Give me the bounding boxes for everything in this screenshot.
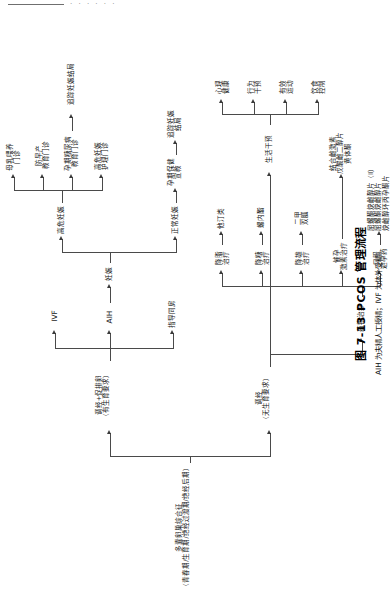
fanout-spine-pregnancy <box>62 252 176 253</box>
edge-education-outcome <box>176 143 177 155</box>
node-no-fertility-branch: 调经 （无生育要求） <box>256 369 271 427</box>
arrow-spironolactone <box>259 231 263 235</box>
node-oc-drugs: 屈螺酮炔雌醇片（Ⅱ） 屈螺酮炔雌醇片 炔雌醇环丙孕酮片 <box>368 139 390 231</box>
node-guided-intercourse: 指导同房 <box>169 297 176 331</box>
edge-highrisk-fanout <box>62 191 63 203</box>
node-effective-exercise: 有效 运动 <box>280 74 295 100</box>
node-track-outcome-normal: 追踪妊娠 结局 <box>168 107 183 141</box>
node-progestin-drugs: 结合雌激素 戊酸雌二醇片 黄体酮 <box>330 131 352 175</box>
arrow-metformin <box>299 231 303 235</box>
arrow-oc-drugs <box>377 231 381 235</box>
edge-to-preterm <box>43 177 44 191</box>
arrow-aih <box>107 330 111 334</box>
edge-pregnancy-fanout <box>110 253 111 263</box>
edge-to-hr-nursing <box>102 177 103 191</box>
figure-caption-title: PCOS 管理流程 <box>352 226 368 311</box>
node-fertility-branch: 调经+促排卵 （有生育要求） <box>96 363 111 427</box>
edge-to-antidiabetic <box>262 273 263 287</box>
node-lifestyle-intervention: 生活干预 <box>266 125 273 173</box>
edge-fertility-fanout <box>110 349 111 361</box>
edge-to-gdm <box>72 177 73 191</box>
figure-caption-number: 图 7-13 <box>352 316 368 361</box>
edge-aih-pregnancy <box>110 287 111 303</box>
edge-oc-drugs <box>380 234 381 245</box>
node-statins: 他汀类 <box>218 205 225 231</box>
figure-caption-note: AIH 为夫精人工授精；IVF 为体外受精。 <box>372 248 383 375</box>
arrow-root-fertility <box>107 430 111 434</box>
node-spironolactone: 螺内酯 <box>258 203 265 231</box>
node-root: 多囊卵巢综合征 （青春期/生育期/绝经过渡期/绝经后期） <box>176 463 191 591</box>
edge-nofertility-fanout <box>270 355 271 367</box>
node-track-outcome-highrisk: 追踪妊娠结局 <box>68 53 75 115</box>
edge-root-nofertility <box>270 433 271 457</box>
edge-highrisk-outcome <box>72 117 73 131</box>
node-gdm-education-clinic: 孕期糖尿病 教育门诊 <box>65 131 80 175</box>
arrow-ivf <box>52 330 56 334</box>
edge-to-lipid <box>222 273 223 287</box>
node-hr-nursing-clinic: 高危妊娠 护理门诊 <box>95 137 110 175</box>
fanout-spine-fertility <box>55 348 173 349</box>
node-metformin: 二甲 双胍 <box>295 205 310 231</box>
node-high-risk-pregnancy: 高危妊娠 <box>58 203 65 237</box>
root-stem <box>190 456 191 463</box>
edge-progestin-drugs <box>342 177 343 239</box>
arrow-statins <box>219 231 223 235</box>
edge-to-aih <box>110 333 111 349</box>
node-behavior-intervention: 行为 干预 <box>248 74 263 100</box>
edge-lipid-statins <box>222 234 223 245</box>
edge-to-psych <box>222 102 223 115</box>
edge-to-progestin <box>342 273 343 287</box>
edge-root-fertility <box>110 433 111 457</box>
fanout-spine-highrisk <box>14 190 102 191</box>
node-antiandrogen-therapy: 降雄 治疗 <box>296 245 311 271</box>
node-aih: AIH <box>106 304 114 330</box>
node-psych-health: 心理 健康 <box>216 74 231 100</box>
node-antidiabetic-therapy: 降糖 治疗 <box>256 245 271 271</box>
node-progestin-therapy: 催孕 激素治疗 <box>334 239 349 273</box>
fanout-spine-lifestyle <box>222 114 318 115</box>
edge-lifestyle-fanout <box>270 115 271 125</box>
edge-to-antiandrogen <box>302 273 303 287</box>
edge-to-normal <box>176 239 177 253</box>
edge-antidiabetic-spiro <box>262 234 263 245</box>
edge-antiandrogen-metformin <box>302 234 303 245</box>
node-ivf: IVF <box>51 303 59 329</box>
node-lipid-therapy: 降脂 治疗 <box>216 245 231 271</box>
node-prenatal-education: 孕期保健 宣教 <box>168 155 183 189</box>
edge-to-ivf <box>55 333 56 349</box>
edge-to-high-risk <box>62 239 63 253</box>
node-breastfeeding-clinic: 母乳喂养 门诊 <box>7 139 22 175</box>
node-diet-control: 饮食 控制 <box>312 74 327 100</box>
fanout-spine-nofertility <box>270 354 362 355</box>
edge-normal-education <box>176 191 177 203</box>
edge-to-breastfeeding <box>14 177 15 191</box>
node-normal-pregnancy: 正常妊娠 <box>172 203 179 237</box>
edge-to-behavior <box>254 102 255 115</box>
arrow-root-nofertility <box>267 430 271 434</box>
edge-to-exercise <box>286 102 287 115</box>
node-preterm-education-clinic: 防早产 教育门诊 <box>36 135 51 175</box>
edge-to-guided-intercourse <box>173 333 174 349</box>
edge-to-diet <box>318 102 319 115</box>
node-pregnancy: 妊娠 <box>106 263 113 285</box>
